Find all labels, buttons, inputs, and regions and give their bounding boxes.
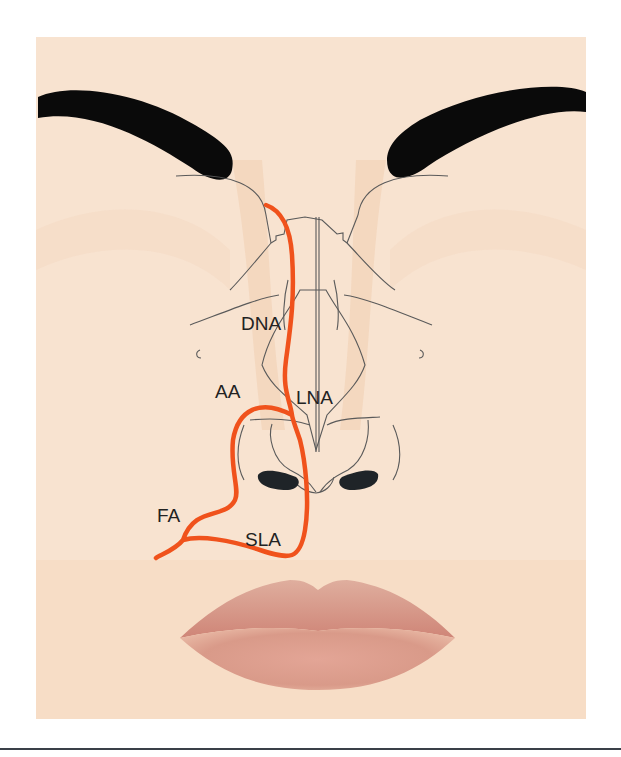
label-sla: SLA [245,529,281,550]
bottom-divider [0,748,621,750]
label-lna: LNA [296,387,333,408]
label-fa: FA [157,505,181,526]
face-nasal-artery-diagram: DNA AA LNA FA SLA [36,37,586,719]
label-aa: AA [215,381,241,402]
label-dna: DNA [241,313,281,334]
